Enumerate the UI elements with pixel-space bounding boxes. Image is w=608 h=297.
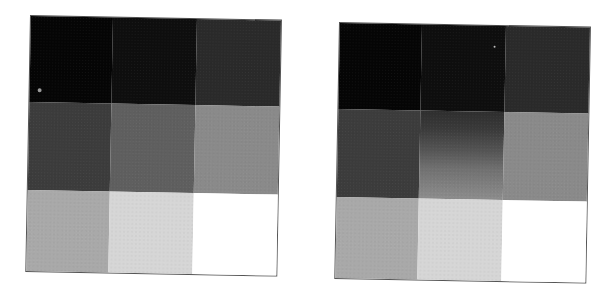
right-cell-r1-c3 [504, 26, 590, 114]
left-cell-r1-c2 [111, 18, 197, 106]
left-cell-r3-c1 [26, 190, 109, 272]
right-cell-r2-c2-gradient [419, 111, 505, 201]
right-cell-r3-c3 [501, 200, 586, 283]
right-cell-r2-c3 [503, 112, 589, 202]
right-grid-panel [334, 22, 591, 284]
left-cell-r1-c1 [29, 16, 113, 103]
left-cell-r2-c3 [194, 105, 280, 195]
right-cell-r1-c2 [420, 25, 506, 113]
left-cell-r2-c2 [110, 104, 196, 194]
left-cell-r3-c3 [192, 193, 277, 276]
left-cell-r3-c2 [108, 191, 193, 274]
right-cell-r2-c1 [337, 109, 421, 198]
right-cell-r3-c2 [417, 198, 502, 281]
right-cell-r3-c1 [335, 197, 418, 279]
left-cell-r2-c1 [28, 102, 112, 191]
left-grid-panel [25, 15, 282, 277]
right-cell-r1-c1 [338, 23, 422, 110]
dust-speck [38, 88, 42, 92]
left-cell-r1-c3 [195, 19, 281, 107]
dust-speck [494, 46, 496, 48]
